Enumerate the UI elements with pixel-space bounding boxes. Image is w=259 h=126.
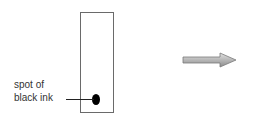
label-leader-line (66, 99, 94, 100)
right-arrow-icon (182, 52, 238, 68)
spot-label-line1: spot of (14, 78, 53, 91)
spot-label-line2: black ink (14, 91, 53, 104)
spot-label: spot of black ink (14, 78, 53, 104)
